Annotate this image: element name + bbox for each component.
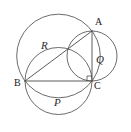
circle-label-r: R: [41, 40, 48, 51]
geometry-canvas: [0, 0, 131, 132]
geometry-figure: A B C R Q P: [0, 0, 131, 132]
vertex-label-c: C: [94, 81, 101, 91]
vertex-label-b: B: [14, 78, 21, 88]
circle-label-p: P: [54, 97, 61, 108]
segment-ab-hypotenuse: [25, 31, 92, 81]
circle-label-q: Q: [96, 54, 104, 65]
vertex-label-a: A: [95, 17, 102, 27]
